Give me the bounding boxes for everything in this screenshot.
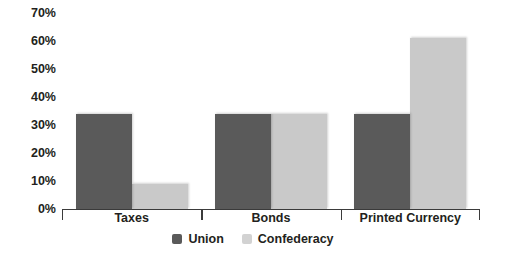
bar-confederacy-bonds <box>271 114 327 209</box>
y-axis-tick-label: 30% <box>0 119 56 132</box>
x-axis-tick <box>62 209 63 220</box>
union-swatch-icon <box>172 234 182 244</box>
y-axis-tick-label: 10% <box>0 175 56 188</box>
y-axis-labels: 0%10%20%30%40%50%60%70% <box>0 0 56 209</box>
y-axis-tick-label: 20% <box>0 147 56 160</box>
x-axis-tick <box>201 209 202 220</box>
bar-confederacy-taxes <box>132 184 188 209</box>
bar-group <box>62 13 201 209</box>
x-axis-category-label: Bonds <box>201 212 340 226</box>
confederacy-swatch-icon <box>242 234 252 244</box>
legend-item-union[interactable]: Union <box>172 232 223 246</box>
bar-group <box>201 13 340 209</box>
y-axis-tick-label: 70% <box>0 7 56 20</box>
x-axis-category-label: Printed Currency <box>341 212 480 226</box>
legend-label: Union <box>188 232 223 246</box>
bar-union-bonds <box>215 114 271 209</box>
bar-union-taxes <box>76 114 132 209</box>
bar-group <box>341 13 480 209</box>
legend-item-confederacy[interactable]: Confederacy <box>242 232 334 246</box>
bar-union-printed-currency <box>354 114 410 209</box>
y-axis-tick-label: 50% <box>0 63 56 76</box>
bar-confederacy-printed-currency <box>410 38 466 209</box>
x-axis-category-label: Taxes <box>62 212 201 226</box>
y-axis-tick-label: 0% <box>0 203 56 216</box>
legend-label: Confederacy <box>258 232 334 246</box>
bar-chart: 0%10%20%30%40%50%60%70% UnionConfederacy… <box>0 0 506 258</box>
plot-area <box>62 13 480 209</box>
x-axis-tick <box>479 209 480 220</box>
y-axis-tick-label: 40% <box>0 91 56 104</box>
chart-legend: UnionConfederacy <box>0 232 506 246</box>
y-axis-tick-label: 60% <box>0 35 56 48</box>
x-axis-tick <box>341 209 342 220</box>
